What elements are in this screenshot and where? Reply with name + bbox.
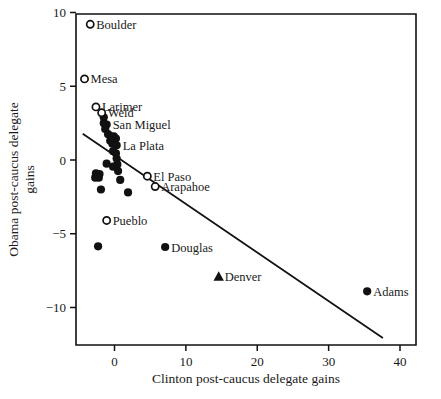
x-tick-label: 10	[179, 354, 192, 369]
data-point-san-miguel	[103, 121, 111, 129]
data-point	[95, 174, 103, 182]
regression-line	[83, 134, 383, 338]
y-tick-label: −10	[46, 300, 66, 315]
x-tick-label: 40	[394, 354, 407, 369]
data-point-larimer	[92, 103, 99, 110]
data-point	[97, 185, 105, 193]
x-tick-label: 20	[251, 354, 264, 369]
data-point	[114, 167, 122, 175]
y-tick-label: −5	[52, 226, 66, 241]
x-tick-label: 0	[111, 354, 118, 369]
data-point-la-plata	[113, 141, 121, 149]
plot-frame	[76, 14, 416, 345]
data-point	[94, 242, 102, 250]
data-point-adams	[363, 287, 371, 295]
y-tick-label: 0	[60, 153, 67, 168]
data-point-label-boulder: Boulder	[96, 18, 137, 32]
data-point-boulder	[87, 21, 94, 28]
y-tick-label: 5	[60, 79, 67, 94]
chart-canvas: 0102030401050−5−10Clinton post-caucus de…	[0, 0, 441, 399]
x-axis-title: Clinton post-caucus delegate gains	[152, 371, 340, 386]
data-point-pueblo	[103, 217, 110, 224]
y-axis-title-line: gains	[22, 165, 37, 194]
data-point-label-mesa: Mesa	[91, 72, 119, 86]
data-point-label-adams: Adams	[373, 285, 409, 299]
y-axis-title-line: Obama post-caucus delegate	[6, 102, 21, 256]
data-point-label-pueblo: Pueblo	[113, 214, 148, 228]
data-point-mesa	[81, 75, 88, 82]
data-point-weld	[98, 109, 105, 116]
x-tick-label: 30	[322, 354, 335, 369]
y-axis-title: Obama post-caucus delegategains	[6, 102, 37, 256]
y-tick-label: 10	[53, 5, 66, 20]
scatter-plot-figure: 0102030401050−5−10Clinton post-caucus de…	[0, 0, 441, 399]
data-point-label-douglas: Douglas	[171, 241, 213, 255]
data-point-label-denver: Denver	[225, 270, 263, 284]
data-point-label-arapahoe: Arapahoe	[161, 180, 210, 194]
data-point-el-paso	[144, 173, 151, 180]
data-point-label-san-miguel: San Miguel	[113, 118, 172, 132]
data-point-douglas	[161, 243, 169, 251]
data-point	[116, 176, 124, 184]
data-point-denver	[214, 271, 224, 280]
data-point-arapahoe	[152, 183, 159, 190]
data-point	[124, 188, 132, 196]
data-point-label-la-plata: La Plata	[123, 139, 165, 153]
